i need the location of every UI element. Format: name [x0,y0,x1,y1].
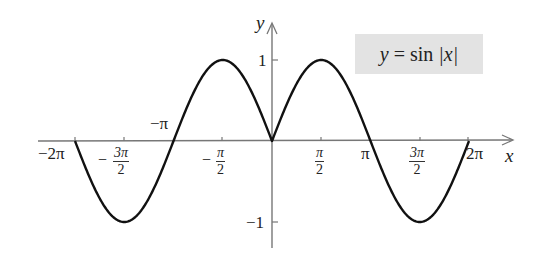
x-tick-neg-2pi: −2π [38,145,65,162]
legend-box: y = sin |x| [355,34,483,74]
x-axis [38,140,512,141]
x-axis-label: x [505,146,513,165]
x-tick-neg-pi2-minus: − [202,151,211,169]
x-tick-neg-3pi2-minus: − [98,151,107,169]
x-tick-3pi2: 3π 2 [409,146,425,177]
y-tick-neg1: −1 [246,214,264,231]
x-tick-pi2: π 2 [315,146,324,177]
y-axis-label: y [256,13,264,32]
y-tick-1: 1 [258,52,267,69]
x-tick-pi: π [361,145,370,162]
x-tick-2pi: 2π [466,145,483,162]
legend-abs: |x| [438,43,458,66]
x-tick-neg-pi2: π 2 [216,146,225,177]
x-tick-neg-pi: −π [150,115,168,132]
x-tick-neg-3pi2: 3π 2 [113,146,129,177]
legend-eq: = sin [389,43,439,66]
legend-lhs: y [380,43,389,66]
